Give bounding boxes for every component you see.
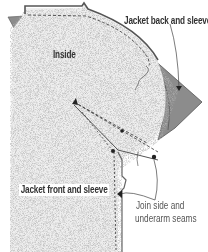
label-inside: Inside xyxy=(53,50,76,60)
label-join-seams-line2: underarm seams xyxy=(135,214,197,224)
label-jacket-front-and-sleeve: Jacket front and sleeve xyxy=(19,184,109,196)
seam-pointer-2 xyxy=(154,160,157,200)
seam-pointer-1 xyxy=(120,193,155,200)
label-jacket-back-and-sleeve: Jacket back and sleeve xyxy=(124,16,208,26)
label-join-seams-line1: Join side and xyxy=(136,201,184,211)
sewing-diagram: Jacket back and sleeve Inside Jacket fro… xyxy=(0,0,208,252)
